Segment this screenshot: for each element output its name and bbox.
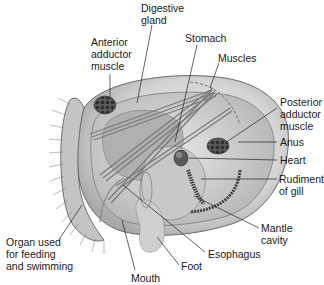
- label-muscles: Muscles: [218, 52, 257, 64]
- label-mantle-cavity: Mantle cavity: [261, 222, 293, 246]
- label-rudiment-of-gill: Rudiment of gill: [279, 173, 324, 197]
- label-posterior-adductor-muscle: Posterior adductor muscle: [280, 96, 322, 132]
- label-foot: Foot: [181, 260, 202, 272]
- label-organ-used-for-feeding-and-swimming: Organ used for feeding and swimming: [6, 236, 73, 272]
- posterior-adductor: [207, 138, 229, 154]
- label-digestive-gland: Digestive gland: [141, 2, 184, 26]
- diagram-canvas: Digestive gland Anterior adductor muscle…: [0, 0, 324, 285]
- label-stomach: Stomach: [185, 32, 226, 44]
- heart: [174, 150, 188, 166]
- label-anus: Anus: [280, 136, 304, 148]
- anterior-adductor: [94, 96, 116, 114]
- label-anterior-adductor-muscle: Anterior adductor muscle: [91, 36, 132, 72]
- label-esophagus: Esophagus: [208, 248, 261, 260]
- label-mouth: Mouth: [131, 272, 160, 284]
- label-heart: Heart: [280, 154, 306, 166]
